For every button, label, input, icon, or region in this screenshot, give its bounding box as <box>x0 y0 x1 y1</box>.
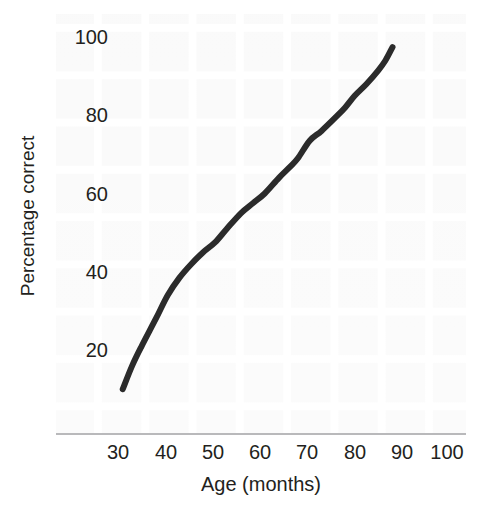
series-line-percentage-correct <box>123 47 393 389</box>
figure-container: 100 80 60 40 20 30 40 50 60 70 80 90 100… <box>0 0 496 513</box>
data-curve-layer <box>0 0 496 513</box>
